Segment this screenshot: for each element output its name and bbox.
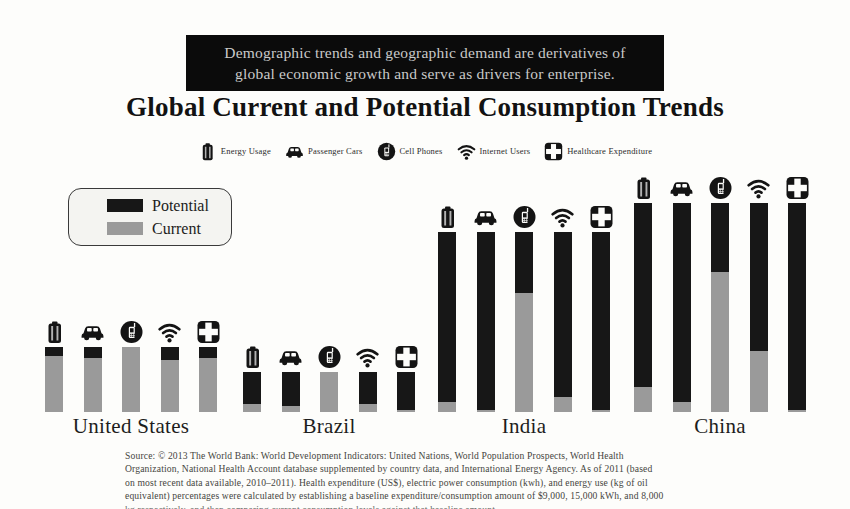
bar-column	[198, 320, 218, 412]
current-segment	[634, 387, 652, 412]
bar-column	[591, 205, 611, 412]
source-line-2: Organization, National Health Account da…	[125, 462, 743, 475]
stacked-bar	[84, 347, 102, 412]
potential-segment	[515, 232, 533, 293]
current-segment	[161, 360, 179, 412]
stacked-bar	[397, 372, 415, 412]
potential-segment	[554, 232, 572, 397]
potential-segment	[45, 347, 63, 355]
energy-icon	[240, 345, 265, 369]
stacked-bar	[282, 372, 300, 412]
infographic: Demographic trends and geographic demand…	[0, 0, 850, 509]
source-note: Source: © 2013 The World Bank: World Dev…	[125, 449, 743, 509]
bar-column	[476, 205, 496, 412]
current-segment	[477, 410, 495, 412]
current-segment	[320, 372, 338, 412]
potential-segment	[477, 232, 495, 410]
country-label-brazil: Brazil	[242, 414, 416, 439]
current-segment	[711, 272, 729, 412]
health-icon	[785, 176, 810, 200]
current-segment	[592, 410, 610, 412]
current-segment	[199, 358, 217, 412]
bar-column	[160, 320, 180, 412]
current-segment	[359, 404, 377, 412]
bar-column	[242, 345, 262, 412]
potential-segment	[84, 347, 102, 357]
potential-segment	[438, 232, 456, 401]
stacked-bar	[477, 232, 495, 412]
stacked-bar	[199, 347, 217, 412]
car-icon	[80, 320, 105, 344]
country-label-china: China	[633, 414, 807, 439]
country-label-united-states: United States	[44, 414, 218, 439]
car-icon	[669, 176, 694, 200]
bar-column	[358, 345, 378, 412]
phone-icon	[512, 205, 537, 229]
stacked-bar	[634, 203, 652, 412]
stacked-bar	[122, 347, 140, 412]
stacked-bar	[359, 372, 377, 412]
phone-icon	[708, 176, 733, 200]
energy-icon	[435, 205, 460, 229]
wifi-icon	[746, 176, 771, 200]
potential-segment	[243, 372, 261, 403]
current-segment	[788, 410, 806, 412]
wifi-icon	[157, 320, 182, 344]
bar-column	[396, 345, 416, 412]
bar-column	[553, 205, 573, 412]
wifi-icon	[355, 345, 380, 369]
country-label-india: India	[437, 414, 611, 439]
wifi-icon	[550, 205, 575, 229]
stacked-bar	[554, 232, 572, 412]
stacked-bar	[161, 347, 179, 412]
bar-group-india	[437, 205, 611, 412]
stacked-bar	[438, 232, 456, 412]
stacked-bar	[592, 232, 610, 412]
energy-icon	[42, 320, 67, 344]
bar-group-china	[633, 176, 807, 412]
bar-group-brazil	[242, 345, 416, 412]
car-icon	[473, 205, 498, 229]
source-line-1: Source: © 2013 The World Bank: World Dev…	[125, 449, 743, 462]
stacked-bar	[673, 203, 691, 412]
potential-segment	[634, 203, 652, 387]
car-icon	[278, 345, 303, 369]
bar-column	[749, 176, 769, 412]
potential-segment	[592, 232, 610, 410]
source-line-5-clipped: kg respectively, and then comparing curr…	[125, 503, 743, 509]
health-icon	[589, 205, 614, 229]
current-segment	[554, 397, 572, 412]
stacked-bar	[788, 203, 806, 412]
stacked-bar	[515, 232, 533, 412]
bar-column	[787, 176, 807, 412]
potential-segment	[282, 372, 300, 405]
potential-segment	[750, 203, 768, 351]
energy-icon	[631, 176, 656, 200]
bar-column	[319, 345, 339, 412]
current-segment	[673, 402, 691, 412]
stacked-bar	[243, 372, 261, 412]
current-segment	[45, 356, 63, 412]
potential-segment	[788, 203, 806, 410]
bar-column	[281, 345, 301, 412]
potential-segment	[397, 372, 415, 410]
bar-column	[437, 205, 457, 412]
potential-segment	[199, 347, 217, 357]
current-segment	[243, 404, 261, 412]
source-line-3: on most recent data available, 2010–2011…	[125, 476, 743, 489]
source-line-4: equivalent) percentages were calculated …	[125, 489, 743, 502]
health-icon	[196, 320, 221, 344]
bar-column	[44, 320, 64, 412]
bar-column	[514, 205, 534, 412]
health-icon	[394, 345, 419, 369]
current-segment	[84, 358, 102, 412]
stacked-bar	[750, 203, 768, 412]
current-segment	[515, 293, 533, 412]
bar-column	[633, 176, 653, 412]
potential-segment	[711, 203, 729, 272]
current-segment	[122, 347, 140, 412]
potential-segment	[359, 372, 377, 403]
bar-column	[672, 176, 692, 412]
bar-column	[121, 320, 141, 412]
phone-icon	[317, 345, 342, 369]
